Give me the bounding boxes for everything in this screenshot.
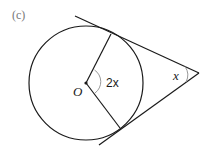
external-angle-arc: [185, 67, 188, 83]
center-label: O: [73, 84, 83, 99]
external-angle-label: x: [172, 68, 179, 83]
center-point: [84, 81, 87, 84]
center-angle-label: 2x: [106, 76, 119, 90]
center-angle-arc: [95, 70, 101, 93]
part-label: (c): [12, 8, 25, 22]
tangent-diagram: (c) O 2x x: [0, 0, 211, 152]
upper-tangent-line: [75, 16, 199, 73]
